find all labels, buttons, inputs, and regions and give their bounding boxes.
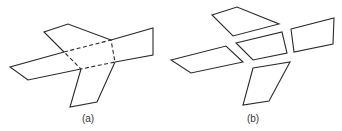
panel-a-shapes	[10, 24, 153, 107]
panel-b-center-piece	[236, 32, 287, 60]
panel-b-shapes	[171, 7, 334, 105]
panel-a-bottom-flap	[70, 62, 115, 107]
panel-a-label: (a)	[82, 113, 94, 124]
panel-b-label: (b)	[247, 113, 259, 124]
panel-b-top-piece	[212, 7, 279, 36]
panel-a-center-fold	[64, 40, 115, 69]
panel-a-left-flap	[10, 52, 81, 80]
diagram-canvas	[0, 0, 342, 131]
panel-b-bottom-piece	[243, 62, 290, 105]
panel-b-right-piece	[291, 18, 334, 52]
panel-a-right-flap	[111, 28, 153, 62]
panel-b-left-piece	[171, 46, 243, 73]
panel-a-top-flap	[44, 24, 111, 52]
